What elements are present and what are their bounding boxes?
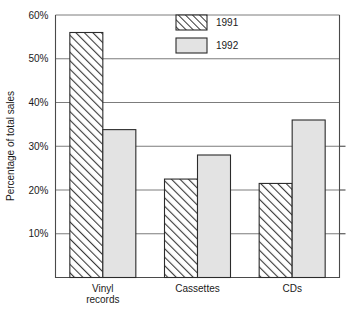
legend-label-1991: 1991 <box>216 17 239 28</box>
x-category-label-vinyl-records: Vinyl <box>92 283 114 294</box>
bar-1991-cds <box>259 183 292 277</box>
right-axis-ticks <box>340 146 346 234</box>
chart-canvas: 10%20%30%40%50%60% VinylrecordsCassettes… <box>0 0 355 310</box>
bar-1991-vinyl-records <box>70 33 103 278</box>
category-labels: VinylrecordsCassettesCDs <box>86 283 302 305</box>
bar-1992-cds <box>292 120 325 278</box>
bar-1992-vinyl-records <box>103 130 136 278</box>
x-category-label-cds: CDs <box>282 283 301 294</box>
bar-group <box>70 33 325 278</box>
legend-label-1992: 1992 <box>216 40 239 51</box>
legend: 1991 1992 <box>176 15 239 53</box>
x-category-label-cassettes: Cassettes <box>175 283 219 294</box>
y-tick-label-30: 30% <box>28 141 48 152</box>
y-tick-label-50: 50% <box>28 53 48 64</box>
legend-swatch-1992 <box>176 38 207 53</box>
legend-swatch-1991 <box>176 15 207 30</box>
y-tick-labels: 10%20%30%40%50%60% <box>28 10 48 240</box>
y-tick-label-20: 20% <box>28 185 48 196</box>
y-tick-label-60: 60% <box>28 10 48 21</box>
y-axis-title: Percentage of total sales <box>5 91 16 201</box>
y-tick-label-10: 10% <box>28 228 48 239</box>
x-category-label-vinyl-records: records <box>86 294 119 305</box>
y-tick-label-40: 40% <box>28 97 48 108</box>
bar-1992-cassettes <box>198 155 231 278</box>
bar-1991-cassettes <box>165 179 198 277</box>
bar-chart: 10%20%30%40%50%60% VinylrecordsCassettes… <box>0 0 355 310</box>
